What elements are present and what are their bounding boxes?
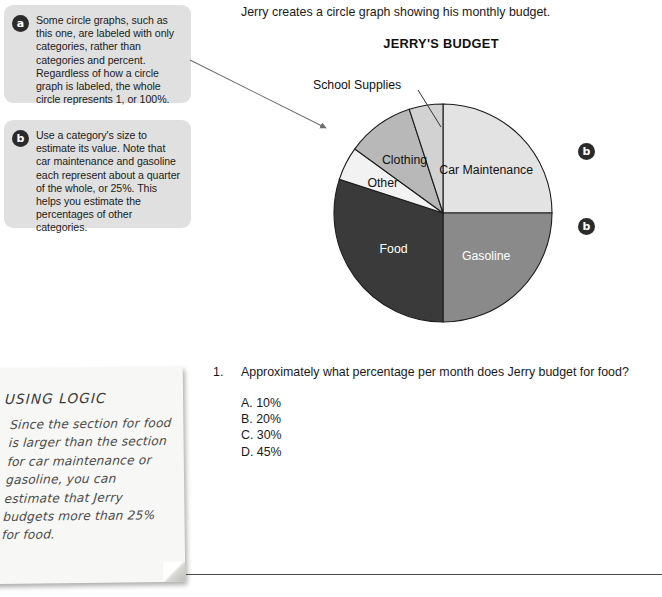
sticky-note-title: USING LOGIC xyxy=(5,389,170,407)
pie-chart: Car MaintenanceGasolineFoodOtherClothing xyxy=(300,72,600,334)
callout-note-b: b Use a category's size to estimate its … xyxy=(4,120,191,228)
school-supplies-label: School Supplies xyxy=(313,78,401,92)
intro-text: Jerry creates a circle graph showing his… xyxy=(241,4,550,20)
pie-label-other: Other xyxy=(367,176,398,190)
pie-slice-gasoline xyxy=(443,213,552,322)
pie-label-car-maintenance: Car Maintenance xyxy=(439,163,533,177)
answer-option-b[interactable]: B. 20% xyxy=(241,411,653,427)
side-badge-b-lower: b xyxy=(578,218,595,235)
callout-badge-a: a xyxy=(12,15,29,32)
callout-text-a: Some circle graphs, such as this one, ar… xyxy=(36,14,181,106)
question-text: Approximately what percentage per month … xyxy=(241,364,641,381)
callout-note-a: a Some circle graphs, such as this one, … xyxy=(4,5,191,103)
footer-divider xyxy=(186,574,662,575)
pie-label-food: Food xyxy=(380,242,408,256)
pie-slice-car-maintenance xyxy=(443,104,552,213)
answer-choice-list: A. 10%B. 20%C. 30%D. 45% xyxy=(241,395,653,461)
pie-slice-group xyxy=(334,104,552,322)
callout-text-b: Use a category's size to estimate its va… xyxy=(36,129,181,235)
question-block: 1. Approximately what percentage per mon… xyxy=(213,364,653,460)
pie-label-clothing: Clothing xyxy=(382,153,427,167)
answer-option-d[interactable]: D. 45% xyxy=(241,444,653,460)
side-badge-b-upper: b xyxy=(578,143,595,160)
question-number: 1. xyxy=(213,364,231,381)
callout-badge-b: b xyxy=(12,130,29,147)
answer-option-a[interactable]: A. 10% xyxy=(241,395,653,411)
chart-title: JERRY'S BUDGET xyxy=(241,36,641,51)
sticky-note-content: USING LOGIC Since the section for food i… xyxy=(0,367,185,545)
worksheet-page: a Some circle graphs, such as this one, … xyxy=(0,0,662,597)
question-row: 1. Approximately what percentage per mon… xyxy=(213,364,653,381)
pie-chart-svg: Car MaintenanceGasolineFoodOtherClothing xyxy=(300,72,600,334)
pie-label-gasoline: Gasoline xyxy=(462,249,511,263)
sticky-note-body: Since the section for food is larger tha… xyxy=(1,414,175,545)
using-logic-sticky-note: USING LOGIC Since the section for food i… xyxy=(0,367,185,584)
answer-option-c[interactable]: C. 30% xyxy=(241,427,653,443)
